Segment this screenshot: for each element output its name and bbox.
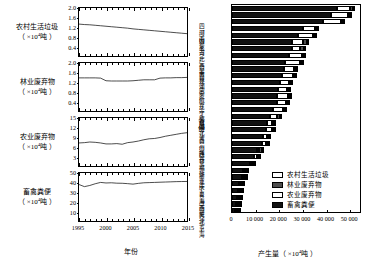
timeseries-xtick <box>151 173 152 175</box>
timeseries-xtick <box>118 219 119 221</box>
bar-row <box>232 174 248 179</box>
timeseries-line-svg <box>79 8 187 56</box>
timeseries-xtick <box>123 219 124 221</box>
timeseries-xtick <box>101 219 102 221</box>
timeseries-xtick <box>184 173 185 175</box>
timeseries-ytick-label: 9 <box>73 135 76 141</box>
timeseries-ytick <box>77 73 80 74</box>
timeseries-xtick <box>96 8 97 10</box>
legend-item-2[interactable]: 农业废弃物 <box>272 190 329 200</box>
timeseries-xtick <box>90 109 91 111</box>
bar-segment-2 <box>331 12 348 17</box>
timeseries-xtick <box>118 54 119 56</box>
timeseries-xtick <box>184 54 185 56</box>
bar-row <box>232 6 355 11</box>
bar-segment-2 <box>289 53 302 58</box>
timeseries-xtick <box>167 109 168 111</box>
timeseries-xtick <box>79 118 80 121</box>
bar-row <box>232 39 309 44</box>
timeseries-xtick-label: 2000 <box>99 225 111 231</box>
timeseries-xtick <box>178 8 179 10</box>
bar-row <box>232 168 249 173</box>
bar-segment-3 <box>232 181 239 186</box>
bar-segment-3 <box>232 33 298 38</box>
timeseries-xtick <box>145 109 146 111</box>
timeseries-xtick <box>90 173 91 175</box>
bar-row <box>232 46 306 51</box>
timeseries-xtick-label: 2005 <box>127 225 139 231</box>
timeseries-xtick <box>123 8 124 10</box>
timeseries-xtick <box>173 109 174 111</box>
timeseries-ytick <box>77 193 80 194</box>
bar-xaxis-title: 产生量（ ×104吨 ） <box>258 248 317 258</box>
bar-row <box>232 93 292 98</box>
legend-item-1[interactable]: 林业废弃物 <box>272 180 329 190</box>
bar-segment-0 <box>343 19 345 24</box>
bar-xaxis-title-pre: 产生量（ ×10 <box>258 250 299 258</box>
bar-yaxis-title: 省份 <box>196 118 206 132</box>
timeseries-xtick <box>151 164 152 166</box>
legend-label: 农业废弃物 <box>287 190 322 200</box>
bar-row <box>232 134 271 139</box>
timeseries-xtick <box>107 53 108 56</box>
timeseries-xtick-label: 2015 <box>182 225 194 231</box>
legend-item-0[interactable]: 农村生活垃圾 <box>272 170 329 180</box>
timeseries-xtick <box>112 109 113 111</box>
bar-segment-3 <box>232 93 277 98</box>
timeseries-xtick <box>90 54 91 56</box>
timeseries-xtick <box>134 53 135 56</box>
timeseries-ytick-label: 0.4 <box>68 100 76 106</box>
bar-row <box>232 33 317 38</box>
timeseries-xtick <box>184 219 185 221</box>
bar-segment-0 <box>259 154 261 159</box>
bar-segment-0 <box>350 12 352 17</box>
bar-segment-3 <box>232 127 266 132</box>
timeseries-xtick <box>118 8 119 10</box>
timeseries-xtick <box>184 63 185 65</box>
legend-item-3[interactable]: 畜禽粪便 <box>272 200 329 210</box>
timeseries-xtick <box>129 54 130 56</box>
timeseries-xaxis-title: 年份 <box>124 246 138 256</box>
timeseries-xtick <box>79 53 80 56</box>
timeseries-xtick <box>151 118 152 120</box>
timeseries-line-svg <box>79 63 187 111</box>
bar-segment-0 <box>289 87 291 92</box>
timeseries-xtick <box>173 8 174 10</box>
bar-segment-2 <box>278 87 287 92</box>
timeseries-xtick <box>189 108 190 111</box>
bar-segment-0 <box>290 93 292 98</box>
legend-swatch-icon <box>272 202 283 208</box>
bar-segment-0 <box>280 114 282 119</box>
bar-segment-0 <box>288 100 290 105</box>
timeseries-xtick <box>178 63 179 65</box>
timeseries-xtick <box>140 54 141 56</box>
timeseries-ytick <box>77 213 80 214</box>
timeseries-xtick <box>151 219 152 221</box>
timeseries-xtick <box>79 218 80 221</box>
timeseries-xtick <box>107 63 108 66</box>
bar-row <box>232 154 261 159</box>
bar-segment-3 <box>232 168 243 173</box>
bar-segment-3 <box>232 60 285 65</box>
bar-segment-3 <box>232 134 263 139</box>
bar-segment-0 <box>269 134 271 139</box>
bar-segment-3 <box>232 141 262 146</box>
timeseries-xtick <box>173 118 174 120</box>
timeseries-xtick <box>123 109 124 111</box>
timeseries-ytick <box>77 28 80 29</box>
bar-segment-0 <box>239 208 241 213</box>
timeseries-label-unit: （ ×104吨 ） <box>2 196 72 207</box>
timeseries-xtick <box>173 173 174 175</box>
bar-segment-3 <box>232 19 323 24</box>
bar-row <box>232 181 245 186</box>
timeseries-xtick <box>112 63 113 65</box>
timeseries-xtick <box>184 118 185 120</box>
timeseries-xtick <box>189 118 190 121</box>
timeseries-xtick <box>90 63 91 65</box>
bar-segment-3 <box>232 154 254 159</box>
timeseries-xtick <box>178 173 179 175</box>
bar-row <box>232 19 345 24</box>
timeseries-xtick <box>145 173 146 175</box>
bar-segment-2 <box>280 80 289 85</box>
timeseries-xtick <box>90 8 91 10</box>
